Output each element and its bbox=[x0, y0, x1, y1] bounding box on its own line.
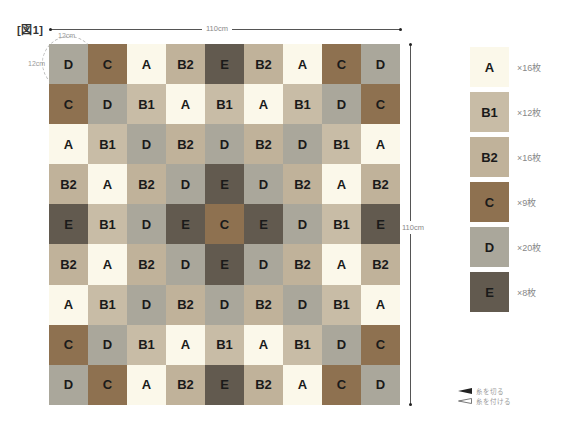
quilt-block-b1: B1 bbox=[88, 124, 127, 164]
quilt-block-c: C bbox=[88, 44, 127, 84]
quilt-block-b1: B1 bbox=[322, 204, 361, 244]
key-attach-label: 糸を付ける bbox=[476, 396, 511, 406]
quilt-block-d: D bbox=[127, 285, 166, 325]
quilt-block-c: C bbox=[49, 325, 88, 365]
quilt-block-b2: B2 bbox=[283, 244, 322, 284]
quilt-block-b1: B1 bbox=[127, 84, 166, 124]
legend-count: ×12枚 bbox=[517, 106, 541, 119]
quilt-block-b2: B2 bbox=[361, 164, 400, 204]
quilt-block-d: D bbox=[88, 325, 127, 365]
quilt-block-a: A bbox=[322, 244, 361, 284]
quilt-block-a: A bbox=[49, 285, 88, 325]
legend-swatch: E bbox=[470, 272, 509, 312]
quilt-block-c: C bbox=[361, 84, 400, 124]
key-cut-label: 糸を切る bbox=[476, 386, 504, 396]
dimension-endpoint bbox=[49, 28, 52, 31]
outline-arrow-icon bbox=[458, 398, 472, 404]
quilt-block-e: E bbox=[49, 204, 88, 244]
quilt-block-b1: B1 bbox=[205, 325, 244, 365]
legend-swatch: B1 bbox=[470, 92, 509, 132]
legend-swatch: C bbox=[470, 182, 509, 222]
quilt-block-a: A bbox=[166, 84, 205, 124]
quilt-block-b2: B2 bbox=[166, 44, 205, 84]
quilt-block-b2: B2 bbox=[166, 285, 205, 325]
quilt-block-b2: B2 bbox=[244, 285, 283, 325]
quilt-block-d: D bbox=[205, 285, 244, 325]
quilt-block-c: C bbox=[322, 365, 361, 405]
quilt-block-a: A bbox=[88, 164, 127, 204]
quilt-block-d: D bbox=[244, 244, 283, 284]
quilt-block-b1: B1 bbox=[322, 285, 361, 325]
key-cut-thread: 糸を切る bbox=[458, 386, 511, 396]
quilt-block-d: D bbox=[283, 124, 322, 164]
quilt-block-d: D bbox=[283, 285, 322, 325]
quilt-block-a: A bbox=[49, 124, 88, 164]
quilt-block-b1: B1 bbox=[205, 84, 244, 124]
quilt-block-c: C bbox=[49, 84, 88, 124]
legend-swatch: B2 bbox=[470, 137, 509, 177]
quilt-block-b1: B1 bbox=[322, 124, 361, 164]
quilt-block-b2: B2 bbox=[166, 124, 205, 164]
legend-count: ×8枚 bbox=[517, 286, 536, 299]
quilt-block-d: D bbox=[361, 44, 400, 84]
quilt-block-c: C bbox=[322, 44, 361, 84]
quilt-block-e: E bbox=[361, 204, 400, 244]
thread-key: 糸を切る 糸を付ける bbox=[458, 386, 511, 406]
dimension-endpoint bbox=[409, 43, 412, 46]
width-dimension-label: 110cm bbox=[202, 24, 232, 33]
quilt-block-d: D bbox=[166, 244, 205, 284]
quilt-block-b2: B2 bbox=[283, 164, 322, 204]
legend-count: ×16枚 bbox=[517, 61, 541, 74]
quilt-block-c: C bbox=[361, 325, 400, 365]
key-attach-thread: 糸を付ける bbox=[458, 396, 511, 406]
quilt-block-a: A bbox=[244, 84, 283, 124]
quilt-block-b1: B1 bbox=[283, 325, 322, 365]
quilt-block-d: D bbox=[322, 84, 361, 124]
quilt-block-e: E bbox=[205, 244, 244, 284]
filled-arrow-icon bbox=[458, 388, 472, 394]
quilt-block-d: D bbox=[127, 124, 166, 164]
quilt-grid: DCAB2EB2ACDCDB1AB1AB1DCAB1DB2DB2DB1AB2AB… bbox=[49, 44, 400, 405]
quilt-block-b2: B2 bbox=[166, 365, 205, 405]
quilt-block-c: C bbox=[88, 365, 127, 405]
quilt-block-e: E bbox=[205, 44, 244, 84]
height-dimension-label: 110cm bbox=[402, 221, 424, 234]
quilt-block-a: A bbox=[361, 285, 400, 325]
cell-height-label: 12cm bbox=[28, 60, 45, 67]
quilt-block-b2: B2 bbox=[244, 44, 283, 84]
figure-label: [図1] bbox=[17, 21, 43, 37]
dimension-endpoint bbox=[409, 403, 412, 406]
quilt-block-a: A bbox=[322, 164, 361, 204]
quilt-block-a: A bbox=[127, 44, 166, 84]
quilt-block-a: A bbox=[361, 124, 400, 164]
legend-count: ×20枚 bbox=[517, 241, 541, 254]
cell-width-label: 12cm bbox=[58, 32, 75, 39]
legend-swatch: A bbox=[470, 47, 509, 87]
quilt-block-a: A bbox=[244, 325, 283, 365]
quilt-block-a: A bbox=[283, 44, 322, 84]
quilt-block-b1: B1 bbox=[88, 204, 127, 244]
quilt-block-a: A bbox=[127, 365, 166, 405]
quilt-block-d: D bbox=[322, 325, 361, 365]
quilt-block-e: E bbox=[166, 204, 205, 244]
quilt-block-d: D bbox=[49, 44, 88, 84]
quilt-block-d: D bbox=[49, 365, 88, 405]
dimension-endpoint bbox=[399, 28, 402, 31]
quilt-block-b1: B1 bbox=[88, 285, 127, 325]
quilt-block-a: A bbox=[88, 244, 127, 284]
quilt-block-d: D bbox=[127, 204, 166, 244]
quilt-block-b2: B2 bbox=[49, 164, 88, 204]
legend-count: ×9枚 bbox=[517, 196, 536, 209]
quilt-block-b2: B2 bbox=[127, 244, 166, 284]
quilt-block-d: D bbox=[88, 84, 127, 124]
quilt-block-b1: B1 bbox=[127, 325, 166, 365]
quilt-block-d: D bbox=[244, 164, 283, 204]
quilt-block-b2: B2 bbox=[244, 365, 283, 405]
quilt-block-e: E bbox=[244, 204, 283, 244]
quilt-block-d: D bbox=[283, 204, 322, 244]
quilt-block-b2: B2 bbox=[127, 164, 166, 204]
quilt-block-a: A bbox=[166, 325, 205, 365]
quilt-block-d: D bbox=[166, 164, 205, 204]
quilt-block-b2: B2 bbox=[49, 244, 88, 284]
quilt-block-d: D bbox=[205, 124, 244, 164]
